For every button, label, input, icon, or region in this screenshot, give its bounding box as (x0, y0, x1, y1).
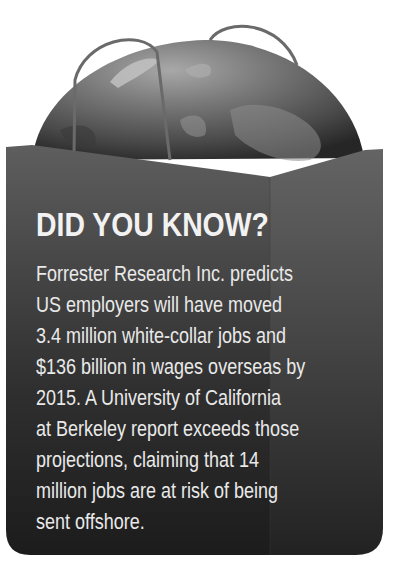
callout-headline: DID YOU KNOW? (36, 203, 269, 247)
callout-body-line: 3.4 million white-collar jobs and (36, 320, 356, 351)
callout-body-line: 2015. A University of California (36, 382, 356, 413)
callout-body-line: $136 billion in wages overseas by (36, 351, 356, 382)
callout-body-line: sent offshore. (36, 506, 356, 537)
callout-body-line: Forrester Research Inc. predicts (36, 258, 356, 289)
callout-body-line: at Berkeley report exceeds those (36, 413, 356, 444)
callout-body-line: million jobs are at risk of being (36, 475, 356, 506)
did-you-know-callout: DID YOU KNOW? Forrester Research Inc. pr… (0, 0, 401, 570)
callout-body-line: projections, claiming that 14 (36, 444, 356, 475)
globe-icon (32, 40, 364, 161)
callout-body-line: US employers will have moved (36, 289, 356, 320)
callout-body: Forrester Research Inc. predicts US empl… (36, 258, 356, 537)
